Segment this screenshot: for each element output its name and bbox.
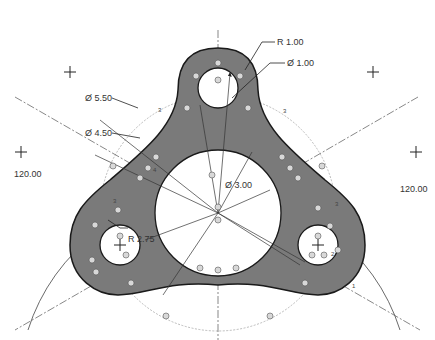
dim-dia-inner-dashed[interactable]: Ø 4.50 <box>85 128 112 138</box>
dim-radius-fillet[interactable]: R 2.75 <box>128 234 155 244</box>
constraint-label-3-upper-right: 3 <box>283 108 287 114</box>
dim-dia-small-hole[interactable]: Ø 1.00 <box>287 58 314 68</box>
part-body[interactable] <box>70 48 365 295</box>
constraint-label-3-upper-left: 3 <box>158 107 162 113</box>
cad-drawing-canvas[interactable]: R 1.00 Ø 1.00 Ø 5.50 Ø 4.50 Ø 3.00 R 2.7… <box>0 0 435 340</box>
top-hole <box>198 68 238 108</box>
dim-angle-right[interactable]: 120.00 <box>400 184 428 194</box>
dim-radius-lobe[interactable]: R 1.00 <box>277 37 304 47</box>
dim-dia-center-hole[interactable]: Ø 3.00 <box>225 180 252 190</box>
constraint-label-1: 1 <box>352 283 356 289</box>
dim-angle-left[interactable]: 120.00 <box>14 169 42 179</box>
dim-dia-outer-dashed[interactable]: Ø 5.50 <box>85 93 112 103</box>
